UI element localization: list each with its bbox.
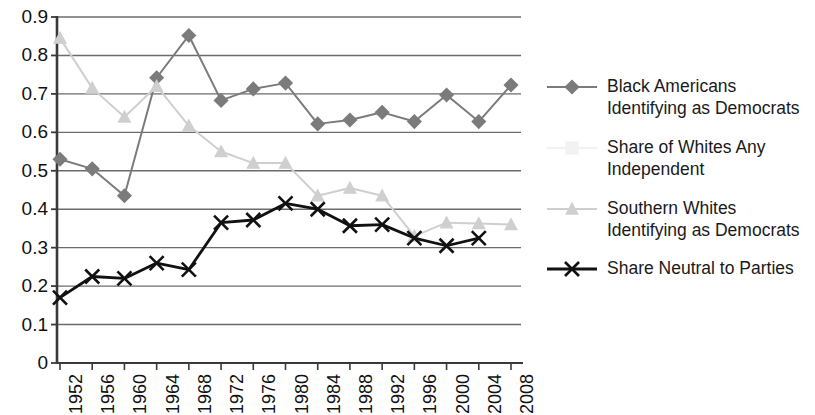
y-tick-label: 0.8 — [2, 45, 48, 64]
x-tick-label: 2000 — [454, 374, 472, 414]
series-3 — [53, 196, 486, 304]
series-line — [60, 38, 511, 236]
data-point-marker — [344, 182, 356, 193]
data-point-marker — [343, 114, 356, 127]
legend-label: Southern Whites Identifying as Democrats — [607, 196, 800, 242]
data-point-marker — [151, 80, 163, 91]
data-point-marker — [566, 142, 578, 154]
legend-label: Black Americans Identifying as Democrats — [607, 74, 800, 120]
x-tick-label: 1952 — [67, 374, 85, 414]
legend-marker-triangle-icon — [545, 196, 599, 222]
x-tick-label: 1972 — [228, 374, 246, 414]
y-tick-label: 0.5 — [2, 161, 48, 180]
y-tick-label: 0.1 — [2, 315, 48, 334]
legend-marker-square-icon — [545, 135, 599, 161]
data-point-marker — [215, 94, 228, 107]
x-tick-label: 1976 — [260, 374, 278, 414]
legend-marker-cross-icon — [545, 256, 599, 282]
x-tick-label: 1968 — [196, 374, 214, 414]
line-chart: 00.10.20.30.40.50.60.70.80.9 19521956196… — [0, 0, 815, 415]
y-tick-label: 0.9 — [2, 7, 48, 26]
series-line — [60, 35, 511, 195]
legend-label: Share of Whites Any Independent — [607, 135, 766, 181]
x-tick-label: 1956 — [99, 374, 117, 414]
legend-item: Share of Whites Any Independent — [545, 135, 813, 181]
legend-marker-diamond-icon — [545, 74, 599, 100]
x-tick-label: 2004 — [486, 374, 504, 414]
y-tick-label: 0.7 — [2, 84, 48, 103]
series-line — [60, 203, 479, 297]
y-tick-label: 0.2 — [2, 276, 48, 295]
data-point-marker — [53, 291, 67, 305]
chart-legend: Black Americans Identifying as Democrats… — [545, 74, 813, 297]
x-tick-label: 1988 — [357, 374, 375, 414]
x-tick-label: 2008 — [518, 374, 536, 414]
data-point-marker — [376, 106, 389, 119]
data-point-marker — [566, 81, 579, 94]
data-point-marker — [86, 82, 98, 93]
y-tick-label: 0 — [2, 353, 48, 372]
x-tick-label: 1984 — [325, 374, 343, 414]
legend-item: Black Americans Identifying as Democrats — [545, 74, 813, 120]
y-tick-label: 0.4 — [2, 199, 48, 218]
data-point-marker — [54, 153, 67, 166]
legend-item: Share Neutral to Parties — [545, 256, 813, 282]
x-tick-label: 1992 — [389, 374, 407, 414]
legend-item: Southern Whites Identifying as Democrats — [545, 196, 813, 242]
x-tick-label: 1980 — [293, 374, 311, 414]
y-tick-label: 0.6 — [2, 122, 48, 141]
x-tick-label: 1960 — [131, 374, 149, 414]
x-tick-label: 1996 — [421, 374, 439, 414]
y-tick-label: 0.3 — [2, 238, 48, 257]
legend-label: Share Neutral to Parties — [607, 256, 794, 279]
x-tick-label: 1964 — [164, 374, 182, 414]
